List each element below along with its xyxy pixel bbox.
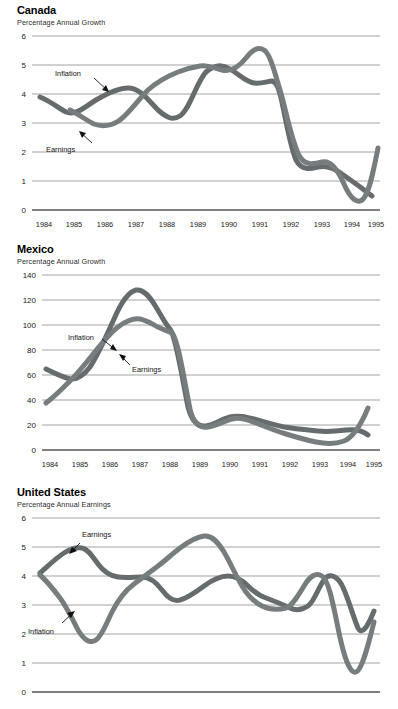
svg-text:1988: 1988: [162, 460, 178, 469]
chart-canada-svg: 6 5 4 3 2 1 0 1984 1985 1986 1987 1988 1…: [0, 28, 398, 233]
svg-text:0: 0: [22, 688, 27, 697]
gridlines-canada: [32, 36, 380, 210]
svg-text:1993: 1993: [314, 220, 330, 229]
svg-text:1990: 1990: [221, 220, 237, 229]
annotation-label-earnings: Earnings: [46, 145, 75, 154]
series-canada-inflation: [40, 66, 372, 196]
panel-subtitle-mexico: Percentage Annual Growth: [17, 257, 398, 266]
svg-text:3: 3: [22, 119, 27, 128]
panel-title-canada: Canada: [17, 4, 398, 16]
svg-text:40: 40: [27, 396, 36, 405]
svg-text:1992: 1992: [283, 220, 299, 229]
svg-text:1991: 1991: [252, 220, 268, 229]
chart-mexico-svg: 140 120 100 80 60 40 20 0 1984 1985 1986…: [0, 267, 398, 472]
svg-text:1986: 1986: [102, 460, 118, 469]
svg-text:1992: 1992: [282, 460, 298, 469]
svg-text:1985: 1985: [72, 460, 88, 469]
svg-text:1995: 1995: [366, 460, 382, 469]
svg-text:1994: 1994: [340, 460, 356, 469]
y-axis-labels-united-states: 6 5 4 3 2 1 0: [22, 514, 27, 697]
annotation-label-inflation: Inflation: [55, 69, 81, 78]
chart-united-states-svg: 6 5 4 3 2 1 0 Earnings Inflation: [0, 510, 398, 700]
svg-text:6: 6: [22, 514, 27, 523]
svg-text:5: 5: [22, 61, 27, 70]
panel-subtitle-canada: Percentage Annual Growth: [17, 18, 398, 27]
panel-title-united-states: United States: [17, 486, 398, 498]
x-axis-labels-canada: 1984 1985 1986 1987 1988 1989 1990 1991 …: [36, 220, 384, 229]
svg-text:5: 5: [22, 543, 27, 552]
svg-text:2: 2: [22, 630, 27, 639]
svg-text:1: 1: [22, 177, 27, 186]
panel-canada: Canada Percentage Annual Growth 6 5 4 3 …: [0, 4, 398, 233]
panel-united-states: United States Percentage Annual Earnings…: [0, 486, 398, 700]
svg-text:0: 0: [22, 206, 27, 215]
svg-text:1989: 1989: [192, 460, 208, 469]
panel-subtitle-united-states: Percentage Annual Earnings: [17, 500, 398, 509]
annotation-canada-inflation: Inflation: [55, 69, 109, 92]
svg-text:140: 140: [23, 271, 37, 280]
svg-text:1986: 1986: [97, 220, 113, 229]
gridlines-united-states: [32, 518, 380, 692]
series-mexico-inflation: [46, 290, 368, 435]
svg-text:1995: 1995: [368, 220, 384, 229]
svg-text:80: 80: [27, 346, 36, 355]
svg-text:1989: 1989: [190, 220, 206, 229]
annotation-label-inflation: Inflation: [28, 627, 54, 636]
svg-text:1993: 1993: [312, 460, 328, 469]
svg-text:4: 4: [22, 90, 27, 99]
svg-text:1984: 1984: [36, 220, 52, 229]
svg-text:60: 60: [27, 371, 36, 380]
svg-text:6: 6: [22, 32, 27, 41]
chart-canada: 6 5 4 3 2 1 0 1984 1985 1986 1987 1988 1…: [0, 28, 398, 233]
annotation-label-earnings: Earnings: [132, 365, 161, 374]
svg-text:1987: 1987: [128, 220, 144, 229]
annotation-canada-earnings: Earnings: [46, 131, 92, 154]
svg-text:20: 20: [27, 421, 36, 430]
svg-text:1984: 1984: [42, 460, 58, 469]
svg-text:2: 2: [22, 148, 27, 157]
svg-text:4: 4: [22, 572, 27, 581]
annotation-label-inflation: Inflation: [68, 333, 94, 342]
svg-text:1991: 1991: [252, 460, 268, 469]
svg-text:120: 120: [23, 296, 37, 305]
y-axis-labels-canada: 6 5 4 3 2 1 0: [22, 32, 27, 215]
panel-mexico: Mexico Percentage Annual Growth 140 120 …: [0, 243, 398, 472]
series-us-earnings: [40, 548, 374, 631]
svg-text:1985: 1985: [66, 220, 82, 229]
x-axis-labels-mexico: 1984 1985 1986 1987 1988 1989 1990 1991 …: [42, 460, 382, 469]
chart-mexico: 140 120 100 80 60 40 20 0 1984 1985 1986…: [0, 267, 398, 472]
svg-text:3: 3: [22, 601, 27, 610]
chart-united-states: 6 5 4 3 2 1 0 Earnings Inflation: [0, 510, 398, 700]
annotation-label-earnings: Earnings: [82, 530, 111, 539]
panel-title-mexico: Mexico: [17, 243, 398, 255]
svg-text:1987: 1987: [132, 460, 148, 469]
series-canada-earnings: [70, 48, 378, 201]
annotation-mexico-earnings: Earnings: [119, 354, 161, 374]
svg-text:1994: 1994: [344, 220, 360, 229]
y-axis-labels-mexico: 140 120 100 80 60 40 20 0: [23, 271, 37, 455]
svg-text:100: 100: [23, 321, 37, 330]
svg-text:1988: 1988: [159, 220, 175, 229]
svg-text:0: 0: [32, 446, 37, 455]
svg-text:1990: 1990: [222, 460, 238, 469]
svg-text:1: 1: [22, 659, 27, 668]
